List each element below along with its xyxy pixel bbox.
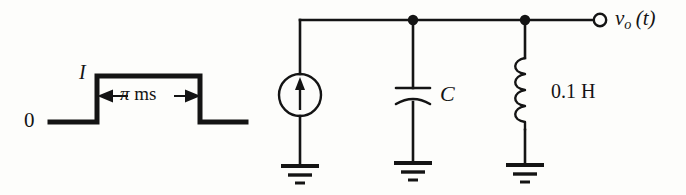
ground-inductor <box>506 165 544 182</box>
output-voltage-subscript: o <box>624 16 631 32</box>
waveform-baseline-label: 0 <box>24 110 35 131</box>
node-capacitor-top <box>408 15 418 25</box>
waveform-width-pi: π <box>120 83 130 104</box>
output-terminal-open-circle <box>594 14 606 26</box>
output-voltage-label: vo (t) <box>615 8 656 31</box>
inductor-label: 0.1 H <box>551 81 595 101</box>
output-voltage-argument: (t) <box>636 6 656 30</box>
output-voltage-symbol: v <box>615 6 624 30</box>
ground-source <box>281 166 319 183</box>
waveform-width-units: ms <box>134 83 156 104</box>
ground-capacitor <box>394 163 432 180</box>
capacitor-label: C <box>440 83 455 105</box>
waveform-width-label: π ms <box>120 84 156 103</box>
inductor-coil-symbol <box>515 58 525 130</box>
node-inductor-top <box>520 15 530 25</box>
waveform-amplitude-label: I <box>79 62 86 82</box>
circuit-figure: 0 I π ms C 0.1 H vo (t) <box>0 0 686 195</box>
current-source-symbol <box>279 74 321 116</box>
